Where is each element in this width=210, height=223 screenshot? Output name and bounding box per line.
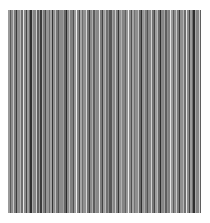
stripe-texture — [8, 10, 201, 213]
stripe — [200, 10, 201, 213]
